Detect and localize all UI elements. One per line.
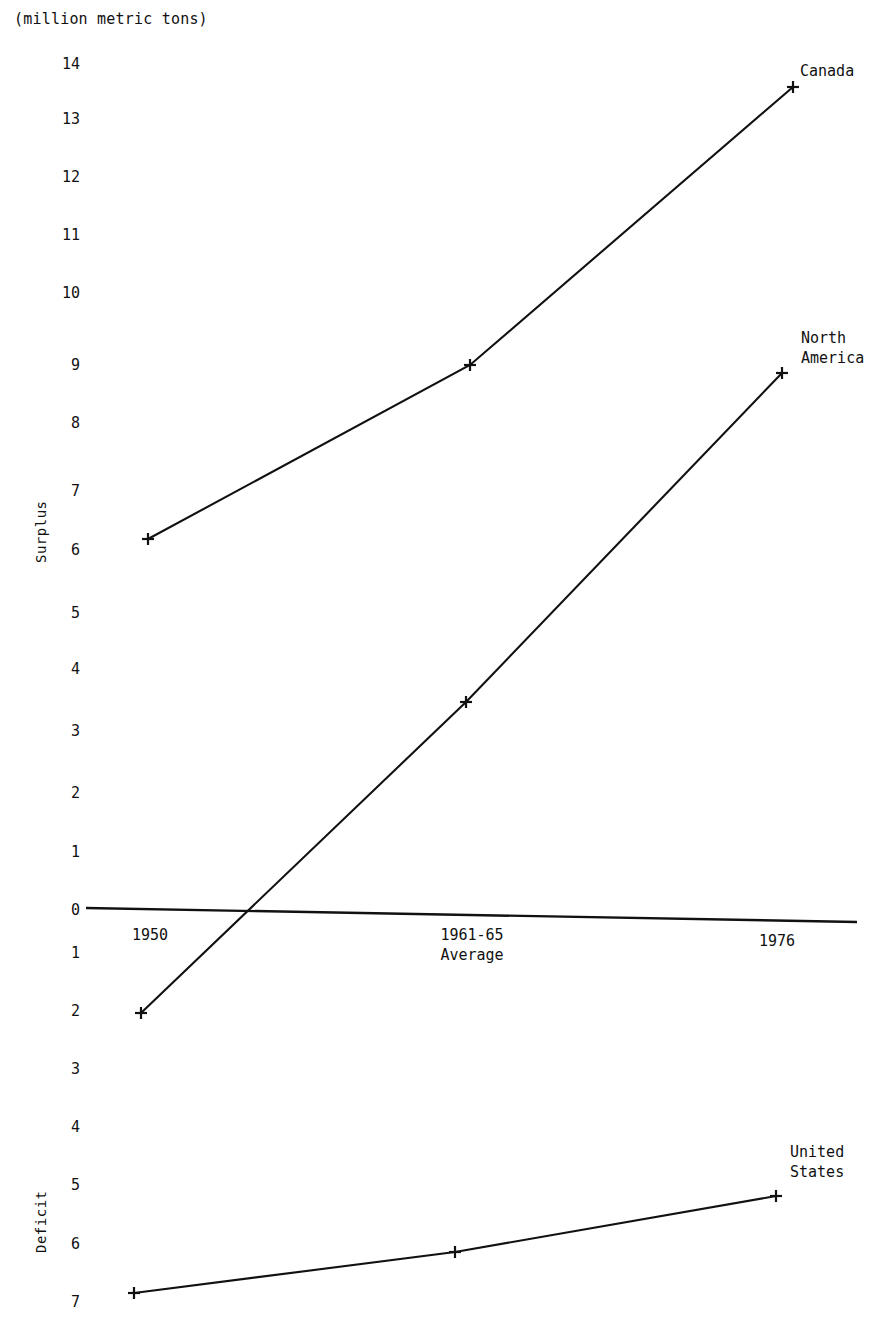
- data-point-marker: [449, 1246, 461, 1258]
- data-point-marker: [142, 533, 154, 545]
- zero-axis-line: [86, 908, 857, 922]
- series-line-north-america: [141, 373, 782, 1013]
- chart-plot-area: [0, 0, 882, 1336]
- series-line-united-states: [134, 1196, 776, 1293]
- series-line-canada: [148, 87, 793, 539]
- data-point-marker: [128, 1287, 140, 1299]
- data-point-marker: [770, 1190, 782, 1202]
- series-united-states: [128, 1190, 782, 1299]
- series-canada: [142, 81, 799, 545]
- series-north-america: [135, 367, 788, 1019]
- chart-figure: (million metric tons) 14 13 12 11 10 9 8…: [0, 0, 882, 1336]
